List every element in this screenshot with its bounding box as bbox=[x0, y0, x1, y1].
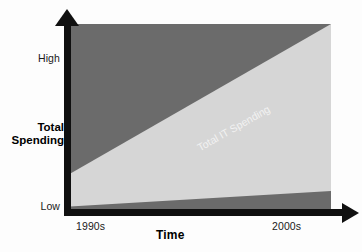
plot-area: Total IT Spending Total Security Spendin… bbox=[70, 24, 331, 216]
x-axis-arrow-icon bbox=[342, 203, 359, 223]
y-axis-title: Total Spending bbox=[0, 121, 64, 147]
x-axis-line bbox=[64, 209, 349, 216]
y-axis-tick-high: High bbox=[38, 52, 60, 64]
total-security-spending-area bbox=[70, 24, 331, 216]
y-axis-title-line-1: Total bbox=[0, 121, 64, 134]
y-axis-line bbox=[64, 22, 71, 216]
x-axis-title: Time bbox=[156, 228, 185, 242]
y-axis-tick-low: Low bbox=[40, 200, 60, 212]
chart-canvas: Total IT Spending Total Security Spendin… bbox=[0, 0, 362, 252]
y-axis-title-line-2: Spending bbox=[0, 134, 64, 147]
x-axis-tick-end: 2000s bbox=[272, 220, 301, 232]
x-axis-tick-start: 1990s bbox=[76, 220, 105, 232]
y-axis-arrow-icon bbox=[55, 9, 79, 26]
